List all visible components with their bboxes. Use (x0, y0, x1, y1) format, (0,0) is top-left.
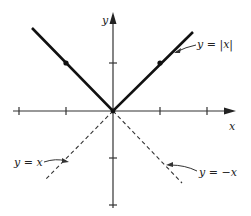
point-1-1 (157, 60, 162, 65)
label-y-equals-neg-x: y = −x (198, 166, 238, 179)
label-y-equals-x: y = x (13, 156, 43, 169)
y-axis-arrow-icon (110, 12, 117, 24)
pointer-negative (170, 165, 197, 171)
line-y-equals-neg-x (113, 111, 182, 183)
x-axis (13, 107, 236, 115)
label-abs-x: y = |x| (196, 38, 233, 52)
graph-canvas: y x y = |x| y = x y = −x (0, 0, 251, 216)
y-axis-label: y (101, 14, 109, 27)
pointer-negative-arrow-icon (166, 162, 173, 167)
x-axis-label: x (229, 120, 236, 133)
line-y-equals-x (45, 111, 113, 180)
point-neg1-1 (63, 60, 68, 65)
pointer-identity-arrow-icon (62, 158, 69, 163)
origin-point (111, 109, 116, 114)
x-axis-arrow-icon (224, 108, 236, 115)
